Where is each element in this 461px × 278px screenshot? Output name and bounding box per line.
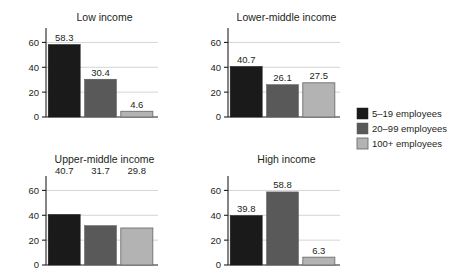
bar xyxy=(267,192,299,265)
y-axis-tick-label: 60 xyxy=(210,185,221,196)
y-axis-tick-label: 0 xyxy=(34,111,39,122)
legend-swatch xyxy=(357,108,368,119)
legend-item-label: 5–19 employees xyxy=(372,108,442,119)
bar xyxy=(48,214,80,265)
panel-title: Low income xyxy=(76,11,132,23)
y-axis-tick-label: 20 xyxy=(210,235,221,246)
bar-value-label: 30.4 xyxy=(91,67,110,78)
y-axis-tick-label: 60 xyxy=(28,37,39,48)
bar-value-label: 58.8 xyxy=(273,179,292,190)
legend-swatch xyxy=(357,123,368,134)
bar xyxy=(121,111,153,117)
bar-value-label: 6.3 xyxy=(312,245,325,256)
bar xyxy=(303,83,335,117)
bar-value-label: 4.6 xyxy=(130,99,143,110)
y-axis-tick-label: 20 xyxy=(210,87,221,98)
y-axis-tick-label: 60 xyxy=(28,185,39,196)
bar xyxy=(121,228,153,265)
legend-swatch xyxy=(357,138,368,149)
y-axis-tick-label: 20 xyxy=(28,235,39,246)
bar-value-label: 29.8 xyxy=(128,165,147,176)
bar xyxy=(267,85,299,117)
bar-value-label: 40.7 xyxy=(55,165,74,176)
bar xyxy=(85,79,117,117)
y-axis-tick-label: 20 xyxy=(28,87,39,98)
y-axis-tick-label: 40 xyxy=(28,210,39,221)
legend-item-label: 100+ employees xyxy=(372,138,442,149)
bar xyxy=(230,66,262,117)
y-axis-tick-label: 0 xyxy=(216,259,221,270)
bar-value-label: 26.1 xyxy=(273,72,292,83)
y-axis-tick-label: 0 xyxy=(34,259,39,270)
y-axis-tick-label: 40 xyxy=(28,62,39,73)
bar xyxy=(230,216,262,266)
panel-title: High income xyxy=(257,153,316,165)
bar-value-label: 27.5 xyxy=(310,70,329,81)
bar-value-label: 39.8 xyxy=(237,203,256,214)
small-multiples-bar-chart: 0204060Low income58.330.44.60204060Lower… xyxy=(0,0,461,278)
bar xyxy=(48,45,80,118)
y-axis-tick-label: 40 xyxy=(210,62,221,73)
y-axis-tick-label: 0 xyxy=(216,111,221,122)
bar-value-label: 40.7 xyxy=(237,54,256,65)
y-axis-tick-label: 60 xyxy=(210,37,221,48)
panel-title: Lower-middle income xyxy=(237,11,337,23)
panel-title: Upper-middle income xyxy=(55,153,155,165)
y-axis-tick-label: 40 xyxy=(210,210,221,221)
legend-item-label: 20–99 employees xyxy=(372,123,447,134)
bar xyxy=(85,226,117,265)
bar-value-label: 58.3 xyxy=(55,32,74,43)
bar xyxy=(303,257,335,265)
bar-value-label: 31.7 xyxy=(91,165,110,176)
